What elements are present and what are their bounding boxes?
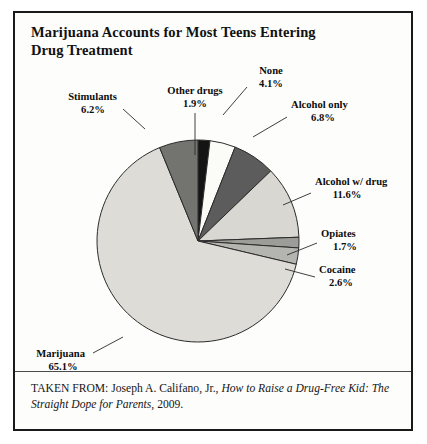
slice-pct-opiates: 1.7% (333, 241, 357, 252)
slice-label-opiates: Opiates (321, 228, 356, 239)
slice-label-none: None (259, 65, 283, 76)
leader-line-stimulants (123, 109, 145, 129)
slice-pct-stimulants: 6.2% (81, 104, 105, 115)
pie-slices (97, 140, 299, 342)
slice-pct-marijuana: 65.1% (48, 361, 77, 370)
caption-prefix: TAKEN FROM: Joseph A. Califano, Jr., (31, 382, 221, 395)
leader-line-none (223, 87, 247, 115)
leader-line-alcohol-only (253, 117, 287, 137)
caption-divider (15, 371, 411, 372)
slice-pct-cocaine: 2.6% (329, 277, 353, 288)
slice-pct-alcohol-w-drug: 11.6% (333, 189, 362, 200)
pie-chart: Other drugs 1.9% None 4.1% Alcohol only … (15, 65, 411, 370)
source-caption: TAKEN FROM: Joseph A. Califano, Jr., How… (31, 381, 397, 413)
slice-pct-alcohol-only: 6.8% (311, 112, 335, 123)
slice-label-other-drugs: Other drugs (167, 85, 222, 96)
slice-label-stimulants: Stimulants (68, 91, 117, 102)
title-line-2: Drug Treatment (31, 42, 133, 58)
figure-panel: Marijuana Accounts for Most Teens Enteri… (13, 11, 413, 431)
pie-chart-svg: Other drugs 1.9% None 4.1% Alcohol only … (15, 65, 411, 370)
slice-pct-none: 4.1% (259, 78, 283, 89)
slice-label-alcohol-w-drug: Alcohol w/ drug (315, 176, 388, 187)
leader-line-marijuana (93, 337, 123, 353)
slice-label-cocaine: Cocaine (319, 264, 356, 275)
slice-label-marijuana: Marijuana (36, 348, 86, 359)
page-title: Marijuana Accounts for Most Teens Enteri… (31, 23, 391, 59)
caption-suffix: , 2009. (151, 398, 183, 411)
slice-pct-other-drugs: 1.9% (183, 98, 207, 109)
slice-label-alcohol-only: Alcohol only (291, 99, 349, 110)
title-line-1: Marijuana Accounts for Most Teens Enteri… (31, 24, 316, 40)
